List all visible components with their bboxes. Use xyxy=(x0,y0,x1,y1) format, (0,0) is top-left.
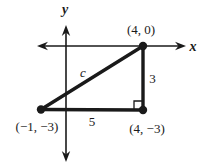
hypotenuse-side xyxy=(41,46,143,110)
triangle xyxy=(41,46,143,110)
vertical-leg-label: 3 xyxy=(149,71,156,86)
coord-label-top-right: (4, 0) xyxy=(127,22,155,37)
vertex-dot-bottom-right xyxy=(139,106,147,114)
figure-canvas: y x (4, 0) (−1, −3) (4, −3) c 3 5 xyxy=(0,0,204,167)
horizontal-leg-label: 5 xyxy=(89,114,96,129)
vertex-dot-bottom-left xyxy=(37,105,45,113)
hypotenuse-label: c xyxy=(80,65,86,80)
coord-label-bottom-left: (−1, −3) xyxy=(16,119,59,134)
x-axis-label: x xyxy=(189,39,197,54)
x-axis xyxy=(37,42,186,50)
vertex-dot-top-right xyxy=(139,42,147,50)
horizontal-leg-side xyxy=(41,110,143,111)
triangle-diagram: y x (4, 0) (−1, −3) (4, −3) c 3 5 xyxy=(0,0,204,167)
y-axis-label: y xyxy=(60,2,69,17)
coord-label-bottom-right: (4, −3) xyxy=(129,121,165,136)
